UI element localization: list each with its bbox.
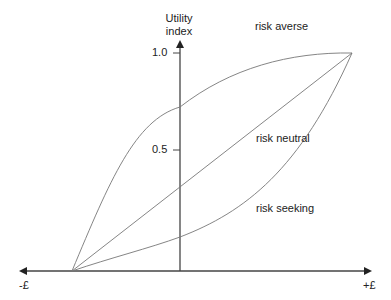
y-axis-title: Utility index [152,12,206,38]
risk-averse-label: risk averse [255,21,308,32]
tick-label-1: 1.0 [152,47,167,58]
x-axis-right-arrow [364,267,372,275]
utility-curves-diagram [0,0,391,300]
tick-label-05: 0.5 [152,144,167,155]
x-axis-positive-label: +£ [363,280,376,291]
y-axis-arrow [176,40,184,48]
y-axis-title-line1: Utility [152,12,206,25]
y-axis-title-line2: index [152,25,206,38]
x-axis-negative-label: -£ [19,280,29,291]
x-axis-left-arrow [19,267,27,275]
risk-neutral-label: risk neutral [256,133,310,144]
risk-seeking-label: risk seeking [256,203,314,214]
